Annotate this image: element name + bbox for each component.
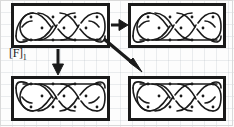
arrow-layer: [0, 0, 234, 127]
arrow-top-left-to-bottom-right: [104, 39, 142, 72]
diagram-root: [F]1: [0, 0, 234, 127]
arrow-top-left-to-bottom-left: [53, 49, 64, 75]
label-f-subscript-1: [F]1: [9, 47, 26, 64]
label-f-subscript: 1: [23, 53, 27, 62]
arrow-top-left-to-top-right: [111, 20, 128, 31]
label-f-text: [F]: [9, 46, 23, 60]
